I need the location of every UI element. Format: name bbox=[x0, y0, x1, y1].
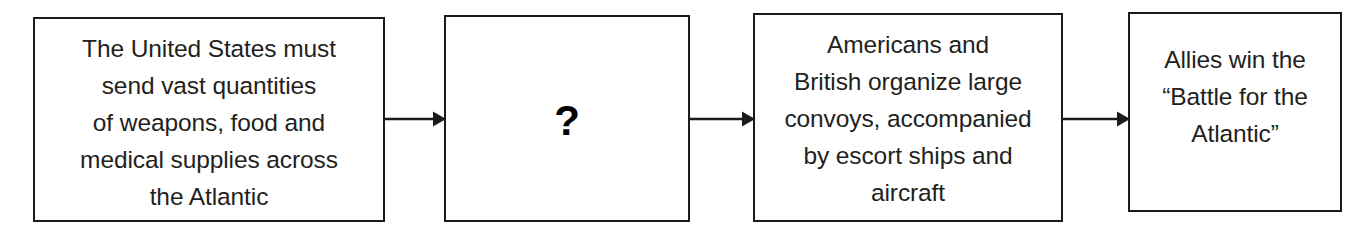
arrow-premise-to-unknown bbox=[383, 107, 446, 131]
premise-box[interactable]: The United States must send vast quantit… bbox=[33, 17, 385, 222]
arrow-unknown-to-convoy bbox=[688, 107, 755, 131]
convoy-box-text: Americans and British organize large con… bbox=[755, 26, 1061, 211]
arrow-right-icon bbox=[1061, 107, 1130, 131]
flowchart-canvas: The United States must send vast quantit… bbox=[0, 0, 1367, 236]
outcome-box[interactable]: Allies win the “Battle for the Atlantic” bbox=[1128, 12, 1342, 212]
question-mark-icon: ? bbox=[446, 100, 688, 142]
arrow-right-icon bbox=[383, 107, 446, 131]
arrow-convoy-to-outcome bbox=[1061, 107, 1130, 131]
arrow-right-icon bbox=[688, 107, 755, 131]
unknown-step-box[interactable]: ? bbox=[444, 15, 690, 222]
outcome-box-text: Allies win the “Battle for the Atlantic” bbox=[1130, 41, 1340, 152]
premise-box-text: The United States must send vast quantit… bbox=[35, 30, 383, 215]
convoy-box[interactable]: Americans and British organize large con… bbox=[753, 13, 1063, 222]
